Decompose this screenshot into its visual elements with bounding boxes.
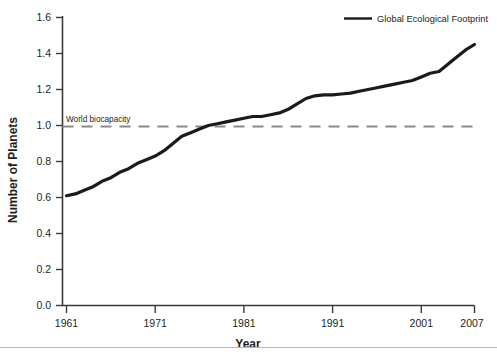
x-tick-label: 2001 <box>410 317 434 329</box>
x-tick-label: 2007 <box>460 317 484 329</box>
x-axis-tick-labels: 1961 1971 1981 1991 2001 2007 <box>55 317 484 329</box>
world-biocapacity-label: World biocapacity <box>66 115 131 124</box>
x-tick-label: 1961 <box>55 317 79 329</box>
y-tick-label: 0.2 <box>36 263 51 275</box>
line-chart: 0.0 0.2 0.4 0.6 0.8 1.0 1.2 1.4 1.6 1961… <box>0 0 497 362</box>
legend-label: Global Ecological Footprint <box>377 14 489 24</box>
y-axis-ticks <box>56 18 63 306</box>
y-tick-label: 1.4 <box>36 47 51 59</box>
y-axis-tick-labels: 0.0 0.2 0.4 0.6 0.8 1.0 1.2 1.4 1.6 <box>36 11 51 311</box>
figure-bottom-rule <box>0 347 497 348</box>
axis-lines <box>63 16 475 306</box>
x-tick-label: 1991 <box>321 317 345 329</box>
y-axis-title: Number of Planets <box>6 117 20 223</box>
x-tick-label: 1971 <box>144 317 168 329</box>
chart-legend: Global Ecological Footprint <box>344 14 489 24</box>
y-tick-label: 1.2 <box>36 83 51 95</box>
y-tick-label: 1.6 <box>36 11 51 23</box>
x-axis-ticks <box>67 306 475 314</box>
x-tick-label: 1981 <box>232 317 256 329</box>
chart-figure: 0.0 0.2 0.4 0.6 0.8 1.0 1.2 1.4 1.6 1961… <box>0 0 497 362</box>
y-tick-label: 0.4 <box>36 227 51 239</box>
y-tick-label: 1.0 <box>36 119 51 131</box>
y-tick-label: 0.0 <box>36 299 51 311</box>
y-tick-label: 0.6 <box>36 191 51 203</box>
y-tick-label: 0.8 <box>36 155 51 167</box>
x-axis-title: Year <box>235 337 261 351</box>
